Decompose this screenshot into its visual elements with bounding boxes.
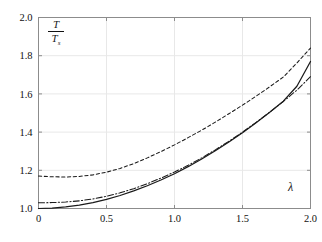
y-tick-label: 1.0 bbox=[19, 203, 32, 214]
y-tick-label: 1.4 bbox=[19, 127, 33, 138]
y-tick-label: 1.8 bbox=[19, 50, 32, 61]
y-axis-numerator: T bbox=[41, 19, 71, 31]
x-tick-label: 2.0 bbox=[304, 213, 317, 224]
x-tick-label: 0.5 bbox=[100, 213, 113, 224]
x-tick-label: 1.5 bbox=[236, 213, 249, 224]
y-axis-denominator: Ts bbox=[41, 32, 71, 47]
y-tick-label: 1.2 bbox=[19, 165, 32, 176]
y-tick-label: 2.0 bbox=[19, 12, 32, 23]
chart-figure: 00.51.01.52.01.01.21.41.61.82.0 T Ts λ bbox=[0, 0, 322, 242]
y-axis-label: T Ts bbox=[41, 19, 71, 47]
x-axis-label: λ bbox=[288, 180, 293, 195]
y-tick-label: 1.6 bbox=[19, 89, 32, 100]
x-tick-label: 0 bbox=[36, 213, 41, 224]
y-axis-denominator-subscript: s bbox=[58, 39, 61, 47]
x-tick-label: 1.0 bbox=[168, 213, 181, 224]
